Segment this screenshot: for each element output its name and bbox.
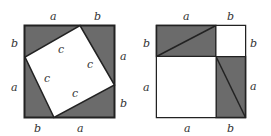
- label-left-b: b: [11, 37, 18, 50]
- label-top-b: b: [227, 10, 234, 23]
- label-inner-c-top: c: [58, 43, 64, 56]
- label-inner-c-right: c: [87, 58, 93, 71]
- label-inner-c-left: c: [44, 72, 50, 85]
- label-left-a: a: [143, 81, 150, 94]
- label-right-a: a: [120, 50, 127, 63]
- label-bottom-b: b: [227, 122, 234, 135]
- label-bottom-a: a: [184, 122, 191, 135]
- label-right-b: b: [250, 37, 257, 50]
- square-a: [157, 57, 217, 118]
- label-left-a: a: [11, 81, 18, 94]
- label-bottom-b: b: [34, 122, 41, 135]
- label-top-a: a: [183, 10, 190, 23]
- label-top-a: a: [50, 10, 57, 23]
- label-right-a: a: [250, 80, 257, 93]
- label-left-b: b: [143, 37, 150, 50]
- label-bottom-a: a: [77, 122, 84, 135]
- label-top-b: b: [94, 10, 101, 23]
- left-square-figure: a b b a b a a b c c c c: [11, 10, 127, 135]
- label-inner-c-bottom: c: [72, 87, 78, 100]
- label-right-b: b: [120, 97, 127, 110]
- pythagorean-proof-diagram: a b b a b a a b c c c c a b a b b a b a: [0, 0, 271, 136]
- square-b: [216, 26, 246, 57]
- right-square-figure: a b a b b a b a: [143, 10, 257, 135]
